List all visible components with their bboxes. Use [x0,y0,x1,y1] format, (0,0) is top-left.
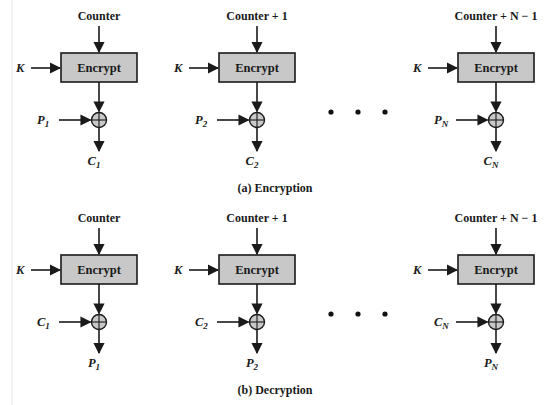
decryption-panel: CounterEncryptKC1P1Counter + 1EncryptKC2… [15,211,537,397]
decryption-stage-2: Counter + 1EncryptKC2P2 [173,211,295,372]
key-label: K [412,61,423,75]
xor-icon [489,315,504,330]
encrypt-box-label: Encrypt [474,61,519,75]
key-label: K [15,61,26,75]
xor-input-label: C1 [37,315,50,331]
output-label: P1 [88,356,100,372]
encryption-stage-3: Counter + N − 1EncryptKPNCN [412,9,537,170]
xor-input-label: P2 [195,113,208,129]
encrypt-box-label: Encrypt [235,263,280,277]
counter-label: Counter + 1 [226,211,287,225]
xor-input-label: CN [434,315,449,331]
xor-icon [250,315,265,330]
output-label: C2 [246,154,259,170]
decryption-stage-1: CounterEncryptKC1P1 [15,211,137,372]
ctr-mode-diagram: CounterEncryptKP1C1Counter + 1EncryptKP2… [0,0,555,405]
xor-input-label: P1 [37,113,49,129]
counter-label: Counter + N − 1 [455,211,538,225]
output-label: CN [484,154,499,170]
encryption-stage-2: Counter + 1EncryptKP2C2 [173,9,295,170]
encryption-panel: CounterEncryptKP1C1Counter + 1EncryptKP2… [15,9,537,195]
xor-icon [489,113,504,128]
key-label: K [173,263,184,277]
xor-icon [92,113,107,128]
counter-label: Counter + N − 1 [455,9,538,23]
encrypt-box-label: Encrypt [474,263,519,277]
xor-input-label: C2 [195,315,208,331]
counter-label: Counter + 1 [226,9,287,23]
encryption-stage-1: CounterEncryptKP1C1 [15,9,137,170]
encrypt-box-label: Encrypt [77,263,122,277]
key-label: K [173,61,184,75]
xor-icon [92,315,107,330]
ellipsis-dots [328,311,387,316]
ellipsis-dots [328,109,387,114]
counter-label: Counter [78,9,121,23]
decryption-caption: (b) Decryption [238,383,313,397]
output-label: P2 [246,356,259,372]
key-label: K [412,263,423,277]
decryption-stage-3: Counter + N − 1EncryptKCNPN [412,211,537,372]
key-label: K [15,263,26,277]
xor-input-label: PN [434,113,449,129]
encryption-caption: (a) Encryption [238,181,313,195]
encrypt-box-label: Encrypt [77,61,122,75]
counter-label: Counter [78,211,121,225]
output-label: PN [484,356,499,372]
output-label: C1 [88,154,101,170]
xor-icon [250,113,265,128]
encrypt-box-label: Encrypt [235,61,280,75]
